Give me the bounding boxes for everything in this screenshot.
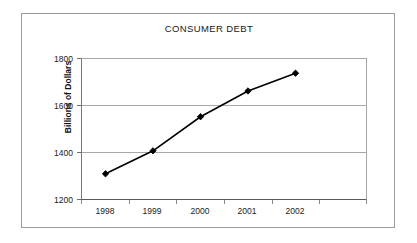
- x-tick-label-1998: 1998: [82, 206, 128, 216]
- series-consumer-debt: [82, 59, 368, 201]
- x-tick-mark-6: [366, 200, 367, 204]
- y-tick-label-1400: 1400: [33, 148, 73, 158]
- series-line: [106, 73, 296, 174]
- x-tick-mark-1: [129, 200, 130, 204]
- plot-area: [81, 58, 367, 200]
- chart-frame: CONSUMER DEBT Billions of Dollars 1800 1…: [21, 13, 395, 228]
- x-tick-mark-4: [272, 200, 273, 204]
- x-tick-mark-5: [319, 200, 320, 204]
- x-tick-mark-3: [224, 200, 225, 204]
- x-tick-label-2001: 2001: [224, 206, 270, 216]
- data-point-1998: [102, 171, 108, 177]
- x-tick-label-2000: 2000: [177, 206, 223, 216]
- x-tick-label-2002: 2002: [272, 206, 318, 216]
- x-tick-label-1999: 1999: [129, 206, 175, 216]
- y-tick-label-1200: 1200: [33, 195, 73, 205]
- data-point-2002: [292, 70, 298, 76]
- y-tick-label-1800: 1800: [33, 54, 73, 64]
- x-tick-mark-2: [176, 200, 177, 204]
- x-tick-mark-0: [81, 200, 82, 204]
- data-point-2001: [245, 88, 251, 94]
- y-tick-label-1600: 1600: [33, 101, 73, 111]
- chart-screenshot: CONSUMER DEBT Billions of Dollars 1800 1…: [0, 0, 417, 243]
- chart-title: CONSUMER DEBT: [22, 23, 396, 34]
